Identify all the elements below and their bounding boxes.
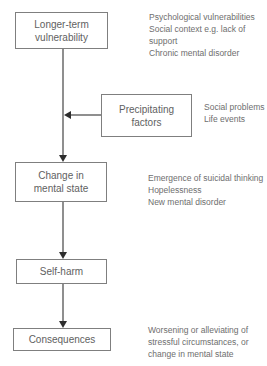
annotation-line: support xyxy=(149,35,255,47)
connector-selfharm-to-consequences xyxy=(62,284,64,322)
annotation-precipitating-factors: Social problems Life events xyxy=(204,101,264,125)
box-precipitating-factors-label: Precipitating factors xyxy=(119,103,174,129)
annotation-line: change in mental state xyxy=(148,348,249,360)
annotation-line: Worsening or alleviating of xyxy=(148,324,249,336)
box-precipitating-factors: Precipitating factors xyxy=(101,94,192,137)
annotation-line: Chronic mental disorder xyxy=(149,47,255,59)
annotation-line: Emergence of suicidal thinking xyxy=(148,172,263,184)
connector-vulnerability-to-change xyxy=(62,49,64,156)
box-self-harm-label: Self-harm xyxy=(40,265,83,278)
box-change-in-mental-state-label: Change in mental state xyxy=(34,169,88,195)
box-self-harm: Self-harm xyxy=(16,259,107,284)
annotation-line: Social context e.g. lack of xyxy=(149,23,255,35)
box-longer-term-vulnerability-label: Longer-term vulnerability xyxy=(34,18,88,44)
annotation-line: Social problems xyxy=(204,101,264,113)
box-longer-term-vulnerability: Longer-term vulnerability xyxy=(15,12,108,49)
annotation-change-in-mental-state: Emergence of suicidal thinking Hopelessn… xyxy=(148,172,263,208)
connector-change-to-selfharm xyxy=(62,202,64,253)
box-consequences: Consequences xyxy=(13,328,111,351)
box-consequences-label: Consequences xyxy=(29,333,96,346)
annotation-line: stressful circumstances, or xyxy=(148,336,249,348)
annotation-line: New mental disorder xyxy=(148,196,263,208)
arrow-left-into-flow-icon xyxy=(64,111,71,119)
annotation-consequences: Worsening or alleviating of stressful ci… xyxy=(148,324,249,360)
annotation-line: Hopelessness xyxy=(148,184,263,196)
arrow-down-into-change-icon xyxy=(59,155,67,162)
arrow-down-into-consequences-icon xyxy=(59,321,67,328)
annotation-line: Life events xyxy=(204,113,264,125)
flow-diagram: Longer-term vulnerability Precipitating … xyxy=(0,0,267,366)
arrow-down-into-selfharm-icon xyxy=(59,252,67,259)
annotation-line: Psychological vulnerabilities xyxy=(149,11,255,23)
annotation-longer-term-vulnerability: Psychological vulnerabilities Social con… xyxy=(149,11,255,59)
connector-precipitating-to-flow xyxy=(70,114,101,116)
box-change-in-mental-state: Change in mental state xyxy=(15,162,107,202)
